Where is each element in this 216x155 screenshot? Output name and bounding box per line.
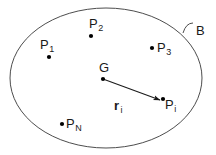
point-pn-label-subscript: N	[75, 123, 82, 133]
point-p2-label: P2	[89, 17, 103, 30]
centroid-dot-g	[101, 77, 105, 81]
figure-canvas	[0, 0, 216, 155]
position-vector-line	[103, 79, 160, 100]
point-p1-dot	[47, 55, 51, 59]
point-pi-label: Pi	[165, 98, 176, 111]
point-pn-dot	[60, 122, 64, 126]
boundary-label-b: B	[196, 24, 205, 37]
point-p3-label-base: P	[157, 40, 166, 55]
point-p3-label-subscript: 3	[166, 47, 172, 57]
point-pn-label-base: P	[66, 116, 75, 131]
point-pi-label-subscript: i	[174, 104, 177, 114]
point-p2-dot	[89, 34, 93, 38]
boundary-leader-arc	[183, 23, 193, 33]
point-pi-label-base: P	[165, 97, 174, 112]
body-boundary-ellipse	[10, 8, 202, 148]
point-p1-label-base: P	[40, 37, 49, 52]
vector-label-subscript: i	[119, 105, 123, 115]
point-p1-label: P1	[40, 38, 54, 51]
point-p3-label: P3	[157, 41, 171, 54]
figure-root: B G ri P1P2P3PiPN	[0, 0, 216, 155]
point-p1-label-subscript: 1	[49, 44, 55, 54]
centroid-label-g: G	[99, 61, 109, 74]
vector-label-ri: ri	[114, 99, 123, 112]
point-pn-label: PN	[66, 117, 82, 130]
point-p2-label-subscript: 2	[98, 23, 104, 33]
point-p2-label-base: P	[89, 16, 98, 31]
point-p3-dot	[150, 46, 154, 50]
